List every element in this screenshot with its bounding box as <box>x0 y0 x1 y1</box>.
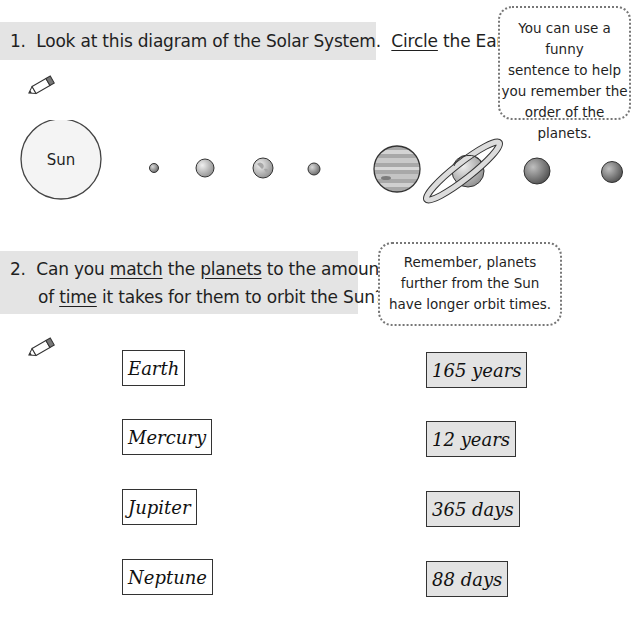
tip-line: You can use a funny <box>500 18 629 60</box>
card-label: 365 days <box>432 499 514 520</box>
tip-box-2: Remember, planets further from the Sun h… <box>378 242 562 326</box>
card-label: 165 years <box>432 360 521 381</box>
tip-line: you remember the <box>500 81 629 102</box>
tip-line: have longer orbit times. <box>380 294 560 315</box>
planet-neptune[interactable] <box>602 162 623 183</box>
question-text: it takes for them to orbit the Sun? <box>97 287 384 307</box>
card-label: Mercury <box>128 427 206 448</box>
planet-saturn[interactable] <box>422 136 504 205</box>
pencil-icon <box>24 337 58 359</box>
planet-uranus[interactable] <box>524 158 550 184</box>
card-label: 12 years <box>432 429 510 450</box>
question-text: of <box>38 287 59 307</box>
tip-line: Remember, planets <box>380 252 560 273</box>
question-text: Can you <box>36 259 110 279</box>
planet-venus[interactable] <box>196 159 214 177</box>
underlined-word: Circle <box>391 31 438 51</box>
sun[interactable]: Sun <box>21 120 101 199</box>
pencil-icon <box>24 75 58 97</box>
svg-text:Sun: Sun <box>47 151 76 169</box>
underlined-word: match <box>110 259 163 279</box>
question-text: Look at this diagram of the Solar System… <box>36 31 381 51</box>
planet-jupiter[interactable] <box>370 146 430 192</box>
planet-earth[interactable] <box>253 158 273 178</box>
time-card-365-days[interactable]: 365 days <box>426 491 520 527</box>
card-label: 88 days <box>432 569 502 590</box>
tip-box-1: You can use a funny sentence to help you… <box>498 6 631 120</box>
planet-mars[interactable] <box>308 163 320 175</box>
question-text: the <box>163 259 201 279</box>
planet-card-earth[interactable]: Earth <box>122 350 185 386</box>
time-card-88-days[interactable]: 88 days <box>426 561 508 597</box>
question-1-text: 1. Look at this diagram of the Solar Sys… <box>10 31 525 51</box>
planet-card-jupiter[interactable]: Jupiter <box>122 489 197 525</box>
time-card-165-years[interactable]: 165 years <box>426 352 527 388</box>
planet-card-mercury[interactable]: Mercury <box>122 419 212 455</box>
solar-system-diagram: Sun <box>0 120 637 220</box>
planet-card-neptune[interactable]: Neptune <box>122 559 213 595</box>
card-label: Earth <box>128 358 179 379</box>
card-label: Jupiter <box>128 497 191 518</box>
question-text: to the amount <box>262 259 386 279</box>
question-number: 1. <box>10 31 26 51</box>
planet-mercury[interactable] <box>150 164 159 173</box>
question-2-text-line-2: of time it takes for them to orbit the S… <box>38 287 384 307</box>
tip-line: further from the Sun <box>380 273 560 294</box>
underlined-word: time <box>59 287 97 307</box>
time-card-12-years[interactable]: 12 years <box>426 421 516 457</box>
question-number: 2. <box>10 259 26 279</box>
tip-line: sentence to help <box>500 60 629 81</box>
question-2-text-line-1: 2. Can you match the planets to the amou… <box>10 259 386 279</box>
card-label: Neptune <box>128 567 207 588</box>
underlined-word: planets <box>200 259 261 279</box>
